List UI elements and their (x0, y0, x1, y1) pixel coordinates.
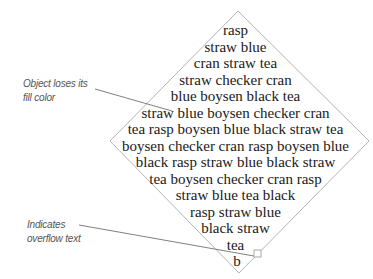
text-line: boysen checker cran rasp boysen blue (122, 138, 349, 154)
text-line: straw blue (204, 39, 266, 55)
callout-fill-color-leader (95, 89, 172, 111)
callout-fill-color-line-1: Object loses its (23, 78, 88, 89)
text-line: straw blue boysen checker cran (141, 105, 330, 121)
text-line: black rasp straw blue black straw (136, 154, 336, 170)
text-line: tea boysen checker cran rasp (149, 171, 321, 187)
text-line: blue boysen black tea (171, 88, 301, 104)
text-line: straw checker cran (179, 72, 292, 88)
callout-overflow-line-1: Indicates (27, 219, 65, 230)
text-line: cran straw tea (194, 55, 278, 71)
text-line: black straw (201, 220, 270, 236)
text-line: tea rasp boysen blue black straw tea (128, 121, 344, 137)
text-line: straw blue tea black (176, 187, 296, 203)
callout-fill-color-line-2: fill color (23, 92, 56, 103)
text-line: rasp straw blue (190, 204, 281, 220)
diagram-canvas: raspstraw bluecran straw teastraw checke… (0, 0, 373, 279)
frame-text: raspstraw bluecran straw teastraw checke… (122, 22, 349, 269)
overflow-box-icon[interactable] (254, 250, 261, 257)
overflow-text-line: b (233, 253, 241, 269)
text-line: rasp (223, 22, 248, 38)
callout-overflow-line-2: overflow text (27, 233, 82, 244)
text-line: tea (227, 237, 245, 253)
